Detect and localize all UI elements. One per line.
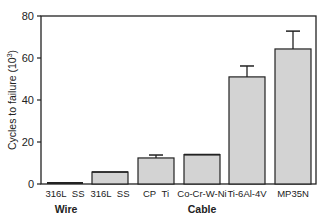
y-tick-label: 80 <box>22 10 34 22</box>
x-tick-label: Co-Cr-W-Ni <box>177 188 226 199</box>
bar <box>47 182 83 184</box>
group-label: Wire <box>55 203 78 215</box>
x-axis: 316L SS316L SSCP TiCo-Cr-W-NiTi-6Al-4VMP… <box>45 188 309 199</box>
x-tick-label: Ti-6Al-4V <box>227 188 267 199</box>
y-tick-label: 0 <box>28 178 34 190</box>
x-tick-label: 316L SS <box>90 188 129 199</box>
chart-canvas: Cycles to failure (103) 020406080 316L S… <box>0 0 326 221</box>
group-labels: WireCable <box>55 203 217 215</box>
y-axis: 020406080 <box>22 10 41 190</box>
x-tick-label: CP Ti <box>143 188 169 199</box>
bar <box>138 155 174 184</box>
svg-text:Cycles to failure (103): Cycles to failure (103) <box>6 50 18 150</box>
bar-chart: Cycles to failure (103) 020406080 316L S… <box>0 0 326 221</box>
y-tick-label: 20 <box>22 136 34 148</box>
x-tick-label: MP35N <box>277 188 309 199</box>
x-tick-label: 316L SS <box>45 188 84 199</box>
y-axis-label: Cycles to failure (103) <box>6 50 18 150</box>
bar <box>229 66 265 184</box>
bar <box>184 155 220 184</box>
group-label: Cable <box>188 203 217 215</box>
y-tick-label: 60 <box>22 52 34 64</box>
plot-area <box>41 16 316 184</box>
bar <box>275 31 311 184</box>
y-tick-label: 40 <box>22 94 34 106</box>
bar <box>92 172 128 184</box>
